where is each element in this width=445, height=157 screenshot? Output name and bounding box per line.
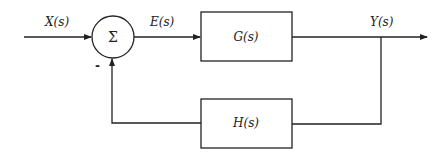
feedback-block-label: H(s): [232, 116, 259, 130]
forward-block-label: G(s): [233, 30, 258, 44]
block-diagram: X(s) Σ - E(s) G(s) Y(s) H(s): [0, 0, 445, 157]
feedback-takeoff-line: [292, 37, 381, 124]
sigma-icon: Σ: [108, 29, 118, 45]
input-signal-label: X(s): [44, 15, 69, 29]
error-signal-label: E(s): [149, 15, 175, 29]
minus-sign: -: [95, 59, 100, 73]
output-signal-label: Y(s): [370, 15, 394, 29]
feedback-return-line: [112, 59, 201, 123]
